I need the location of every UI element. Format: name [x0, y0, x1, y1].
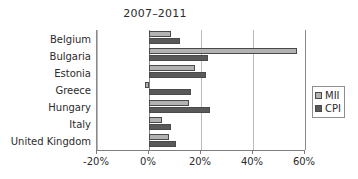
tickmark-40%	[252, 150, 253, 154]
chart-row: United Kingdom	[97, 133, 305, 150]
bar-cpi	[149, 55, 208, 61]
legend-label-cpi: CPI	[325, 104, 341, 114]
bar-mii	[145, 82, 149, 88]
legend-swatch-mii	[315, 92, 322, 99]
legend-label-mii: MII	[325, 91, 340, 101]
bar-chart: 2007–2011 BelgiumBulgariaEstoniaGreeceHu…	[0, 0, 358, 179]
bar-mii	[149, 134, 169, 140]
gridline-60%	[305, 30, 306, 150]
category-label: United Kingdom	[11, 136, 91, 147]
category-label: Hungary	[48, 102, 91, 113]
legend-swatch-cpi	[315, 105, 322, 112]
legend-entry-mii: MII	[315, 89, 341, 102]
x-tick-label: 60%	[293, 156, 315, 167]
chart-row: Italy	[97, 116, 305, 133]
category-label: Estonia	[54, 67, 91, 78]
legend-entry-cpi: CPI	[315, 102, 341, 115]
tickmark-60%	[304, 150, 305, 154]
bar-cpi	[149, 72, 206, 78]
bar-mii	[149, 31, 171, 37]
chart-row: Belgium	[97, 30, 305, 47]
bar-cpi	[149, 141, 176, 147]
tickmark-0%	[148, 150, 149, 154]
plot-area: BelgiumBulgariaEstoniaGreeceHungaryItaly…	[96, 30, 304, 150]
bar-cpi	[149, 124, 171, 130]
chart-row: Greece	[97, 81, 305, 98]
category-label: Greece	[55, 84, 91, 95]
bar-mii	[149, 117, 162, 123]
bar-mii	[149, 65, 195, 71]
x-tick-label: 20%	[189, 156, 211, 167]
tickmark-20%	[200, 150, 201, 154]
category-label: Bulgaria	[50, 50, 91, 61]
bar-cpi	[149, 89, 191, 95]
bar-cpi	[149, 38, 180, 44]
x-tick-label: 0%	[140, 156, 156, 167]
bar-mii	[149, 100, 189, 106]
chart-title: 2007–2011	[0, 7, 310, 20]
chart-legend: MII CPI	[312, 86, 345, 118]
chart-row: Hungary	[97, 99, 305, 116]
chart-row: Bulgaria	[97, 47, 305, 64]
chart-row: Estonia	[97, 64, 305, 81]
x-tick-label: -20%	[83, 156, 109, 167]
bar-mii	[149, 48, 297, 54]
bar-cpi	[149, 107, 210, 113]
tickmark--20%	[96, 150, 97, 154]
category-label: Belgium	[50, 33, 91, 44]
category-label: Italy	[69, 119, 91, 130]
x-tick-label: 40%	[241, 156, 263, 167]
